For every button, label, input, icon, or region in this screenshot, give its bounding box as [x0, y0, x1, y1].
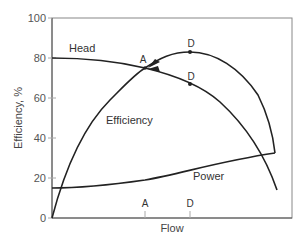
- y-axis-title: Efficiency, %: [12, 87, 24, 149]
- y-tick-40: 40: [34, 132, 46, 144]
- point-a-marker: [143, 66, 147, 70]
- x-tick-label-d: D: [186, 198, 193, 209]
- y-tick-60: 60: [34, 92, 46, 104]
- y-tick-20: 20: [34, 172, 46, 184]
- x-tick-label-a: A: [142, 198, 149, 209]
- power-curve: [52, 153, 275, 188]
- pump-curve-chart: 100 80 60 40 20 0 Efficiency, % A D Flow…: [0, 0, 305, 240]
- y-tick-80: 80: [34, 52, 46, 64]
- power-label: Power: [193, 170, 225, 182]
- efficiency-curve: [52, 52, 275, 218]
- point-d-efficiency-marker: [188, 50, 192, 54]
- y-tick-100: 100: [28, 12, 46, 24]
- point-d-head-marker: [188, 82, 192, 86]
- point-a-label: A: [140, 54, 147, 65]
- y-tick-0: 0: [40, 212, 46, 224]
- x-axis-title: Flow: [160, 222, 183, 234]
- point-d-efficiency-label: D: [187, 38, 194, 49]
- point-d-head-label: D: [187, 71, 194, 82]
- efficiency-label: Efficiency: [106, 114, 153, 126]
- head-label: Head: [69, 42, 95, 54]
